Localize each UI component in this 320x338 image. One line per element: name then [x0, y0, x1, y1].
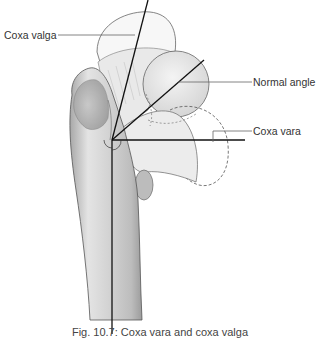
label-coxa-valga: Coxa valga: [4, 29, 57, 41]
label-coxa-vara: Coxa vara: [253, 125, 301, 137]
label-normal-angle: Normal angle: [253, 76, 315, 88]
figure-caption: Fig. 10.7: Coxa vara and coxa valga: [0, 326, 320, 338]
